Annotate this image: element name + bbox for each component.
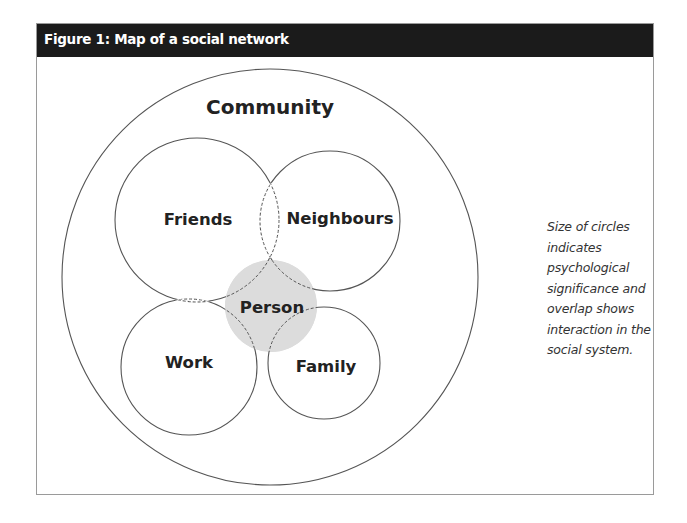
- community-label: Community: [206, 95, 334, 119]
- person-label: Person: [240, 298, 304, 317]
- family-label: Family: [296, 357, 357, 376]
- figure-caption: Size of circles indicates psychological …: [547, 217, 657, 361]
- work-label: Work: [165, 353, 214, 372]
- friends-label: Friends: [164, 210, 233, 229]
- overlap-dashes: [115, 138, 400, 435]
- neighbours-label: Neighbours: [286, 209, 393, 228]
